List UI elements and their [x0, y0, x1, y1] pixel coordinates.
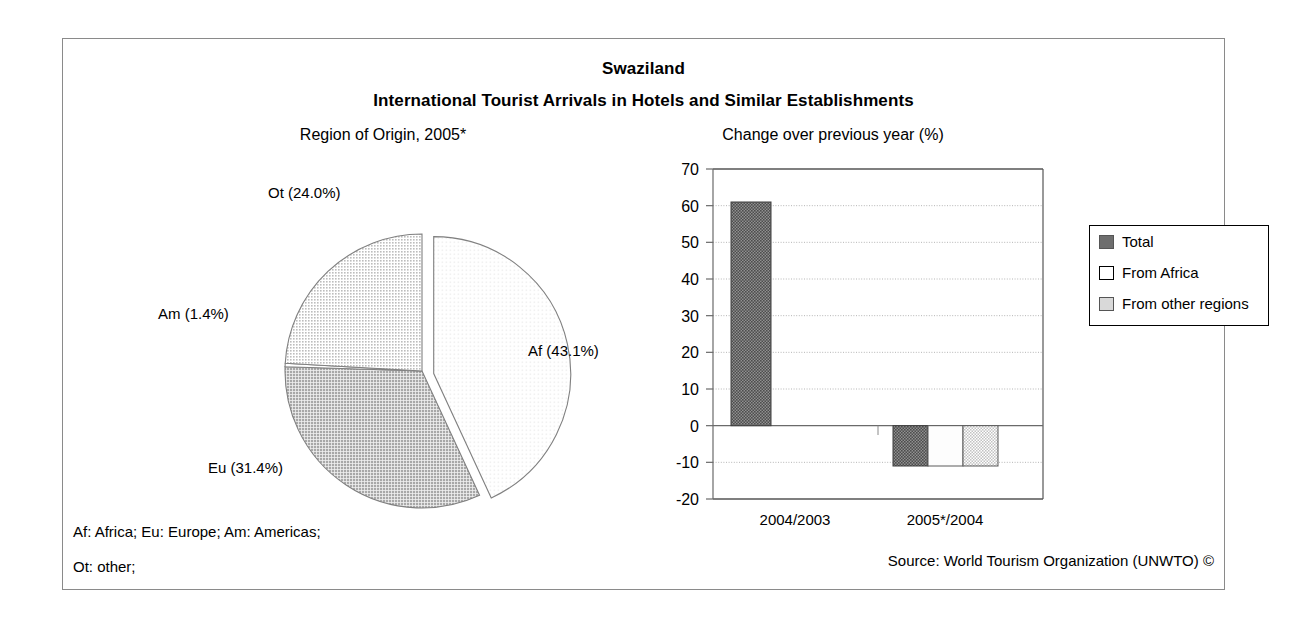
- y-tick-label: 50: [681, 234, 699, 251]
- legend-label-from-africa: From Africa: [1122, 264, 1199, 281]
- pie-chart-svg: [158, 159, 628, 509]
- legend-label-total: Total: [1122, 233, 1154, 250]
- footnote-abbreviations-line2: Ot: other;: [73, 558, 136, 575]
- legend: Total From Africa From other regions: [1089, 225, 1269, 326]
- bar-total-2005-2004: [893, 426, 928, 466]
- bar-from-africa-2005-2004: [928, 426, 963, 466]
- x-category-label: 2004/2003: [760, 511, 831, 528]
- pie-label-eu: Eu (31.4%): [208, 459, 283, 476]
- pie-slice-ot: [285, 234, 422, 371]
- y-tick-label: 60: [681, 198, 699, 215]
- legend-item-from-other-regions: From other regions: [1090, 288, 1268, 319]
- footnote-abbreviations-line1: Af: Africa; Eu: Europe; Am: Americas;: [73, 523, 321, 540]
- figure-subtitle: International Tourist Arrivals in Hotels…: [63, 91, 1224, 111]
- legend-swatch-from-africa-icon: [1099, 266, 1114, 280]
- y-axis-ticks: [706, 169, 713, 499]
- pie-label-am: Am (1.4%): [158, 305, 229, 322]
- bar-total-2004-2003: [731, 202, 771, 426]
- y-tick-label: 10: [681, 381, 699, 398]
- legend-label-from-other-regions: From other regions: [1122, 295, 1249, 312]
- legend-item-total: Total: [1090, 226, 1268, 257]
- y-tick-label: -10: [676, 454, 699, 471]
- y-tick-label: 0: [690, 418, 699, 435]
- page-title: Swaziland: [63, 59, 1224, 79]
- y-tick-label: -20: [676, 491, 699, 508]
- y-tick-label: 70: [681, 161, 699, 178]
- legend-swatch-from-other-regions-icon: [1099, 297, 1114, 311]
- pie-label-af: Af (43.1%): [528, 342, 599, 359]
- pie-chart: Ot (24.0%) Am (1.4%) Eu (31.4%) Af (43.1…: [158, 159, 628, 509]
- x-category-label: 2005*/2004: [907, 511, 984, 528]
- source-note: Source: World Tourism Organization (UNWT…: [888, 552, 1214, 569]
- bar-chart: 70 60 50 40 30 20 10 0 -10 -20 2004/2003…: [643, 159, 1063, 559]
- figure-frame: Swaziland International Tourist Arrivals…: [62, 38, 1225, 590]
- bar-chart-svg: 70 60 50 40 30 20 10 0 -10 -20 2004/2003…: [643, 159, 1063, 559]
- bar-panel-title: Change over previous year (%): [663, 126, 1003, 144]
- pie-panel-title: Region of Origin, 2005*: [218, 126, 548, 144]
- y-tick-label: 20: [681, 344, 699, 361]
- legend-item-from-africa: From Africa: [1090, 257, 1268, 288]
- bar-from-other-regions-2005-2004: [963, 426, 998, 466]
- y-tick-label: 30: [681, 308, 699, 325]
- pie-label-ot: Ot (24.0%): [268, 184, 341, 201]
- legend-swatch-total-icon: [1099, 235, 1114, 249]
- y-tick-label: 40: [681, 271, 699, 288]
